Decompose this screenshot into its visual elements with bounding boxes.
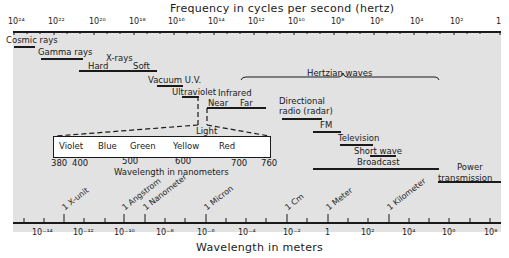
ultraviolet-range (182, 96, 199, 98)
broadcast-label: Broadcast (357, 157, 400, 167)
power-label-line1: Power (457, 162, 483, 172)
fm-range (313, 131, 341, 133)
broadcast-range (313, 168, 439, 170)
gamma-rays-range (41, 58, 83, 60)
nm-tick: 700 (231, 158, 247, 168)
x-rays-range (79, 70, 157, 72)
gamma-rays-label: Gamma rays (38, 47, 92, 57)
nm-tick: 600 (175, 156, 191, 166)
tick-marks (0, 0, 509, 258)
nm-tick: 760 (261, 158, 277, 168)
infrared-label: Infrared (218, 88, 252, 98)
fm-label: FM (320, 120, 332, 130)
blue-label: Blue (98, 141, 117, 151)
hertzian-waves-label: Hertzian waves (307, 68, 372, 78)
radar-label-line2: radio (radar) (279, 106, 333, 116)
cosmic-rays-label: Cosmic rays (6, 35, 58, 45)
green-label: Green (130, 141, 156, 151)
visible-light-box: Violet Blue Green Yellow Red (53, 136, 271, 158)
radar-label-line1: Directional (279, 96, 325, 106)
vacuum-uv-label: Vacuum U.V. (148, 75, 201, 85)
nm-tick: 380 (51, 158, 67, 168)
television-label: Television (338, 133, 379, 143)
nm-caption: Wavelength in nanometers (114, 167, 229, 177)
yellow-label: Yellow (173, 141, 199, 151)
x-rays-label: X-rays (106, 53, 133, 63)
infrared-range (207, 107, 266, 109)
nm-tick: 500 (122, 156, 138, 166)
red-label: Red (219, 141, 235, 151)
power-transmission-range (438, 181, 501, 183)
violet-label: Violet (59, 141, 83, 151)
nm-tick: 400 (72, 158, 88, 168)
radar-range (282, 118, 322, 120)
cosmic-rays-range (14, 46, 35, 48)
light-label: Light (196, 126, 217, 136)
